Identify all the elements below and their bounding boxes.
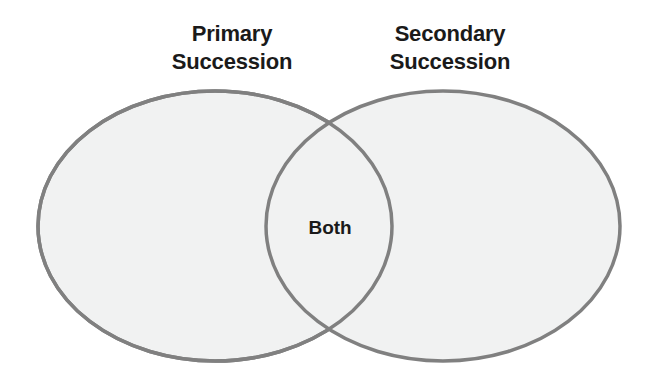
label-secondary-succession: Secondary Succession — [348, 20, 552, 76]
label-primary-succession-line1: Primary — [132, 20, 332, 48]
label-primary-succession-line2: Succession — [132, 48, 332, 76]
label-primary-succession: Primary Succession — [132, 20, 332, 76]
venn-diagram: Primary Succession Secondary Succession … — [0, 0, 658, 383]
label-secondary-succession-line2: Succession — [348, 48, 552, 76]
label-intersection-both: Both — [270, 216, 390, 240]
label-secondary-succession-line1: Secondary — [348, 20, 552, 48]
